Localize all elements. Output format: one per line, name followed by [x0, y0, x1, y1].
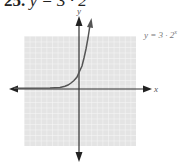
curve-arrow-icon — [87, 18, 93, 28]
x-axis-right-arrow-icon — [143, 86, 152, 93]
grid — [24, 36, 136, 146]
equation-label: y = 3 · 2x — [144, 29, 177, 40]
x-axis-left-arrow-icon — [9, 86, 18, 93]
graph: x y — [0, 0, 181, 166]
y-axis-label: y — [76, 6, 81, 16]
x-axis-label: x — [153, 84, 158, 94]
y-axis-down-arrow-icon — [76, 152, 83, 162]
y-axis-up-arrow-icon — [76, 16, 83, 26]
